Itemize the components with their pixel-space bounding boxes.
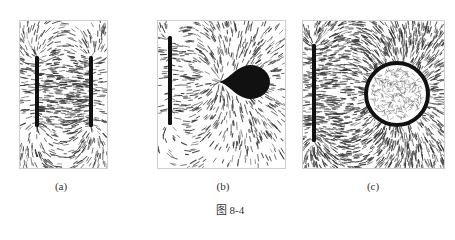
field-pattern-c — [303, 21, 444, 168]
sublabel-a: (a) — [46, 180, 76, 192]
field-pattern-a — [20, 21, 107, 168]
plate-right — [89, 56, 93, 127]
field-pattern-b — [158, 21, 285, 168]
panel-c-plate-and-ring — [302, 20, 445, 169]
plate — [312, 44, 316, 142]
sublabel-b: (b) — [208, 180, 238, 192]
plate — [168, 36, 172, 125]
plate-left — [35, 56, 39, 127]
teardrop-conductor — [219, 65, 270, 99]
panel-a-parallel-plates — [19, 20, 108, 169]
panel-b-plate-and-teardrop — [157, 20, 286, 169]
sublabel-c: (c) — [358, 180, 388, 192]
figure-caption: 图 8-4 — [190, 201, 270, 217]
